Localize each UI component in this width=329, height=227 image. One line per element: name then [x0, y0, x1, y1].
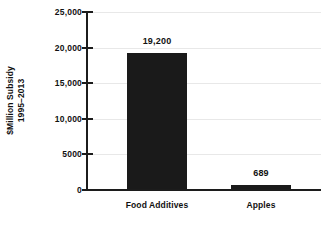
y-axis-tick-mark [82, 189, 93, 191]
bar-value-label: 689 [206, 168, 316, 178]
y-axis-line [86, 12, 88, 191]
y-tick-label: 0 [22, 185, 82, 195]
y-tick-label: 15,000 [22, 78, 82, 88]
y-axis-tick-mark [82, 47, 93, 49]
y-tick-label: 5000 [22, 149, 82, 159]
bar-value-label: 19,200 [102, 36, 212, 46]
gridline [88, 12, 321, 13]
x-axis-category-label: Apples [196, 200, 326, 210]
y-axis-tick-mark [82, 11, 93, 13]
bar [127, 53, 187, 190]
x-axis-line [86, 189, 321, 191]
gridline [88, 48, 321, 49]
y-tick-label: 20,000 [22, 43, 82, 53]
y-tick-label: 25,000 [22, 7, 82, 17]
gridline [88, 119, 321, 120]
y-axis-tick-mark [82, 118, 93, 120]
y-axis-title-line-1: $Million Subsidy [5, 66, 16, 135]
y-axis-tick-mark [82, 153, 93, 155]
y-axis-tick-mark [82, 82, 93, 84]
gridline [88, 83, 321, 84]
y-axis-tick-labels: 25,000 20,000 15,000 10,000 5000 0 [22, 0, 82, 227]
bar-chart: $Million Subsidy 1995–2013 25,000 20,000… [0, 0, 329, 227]
gridline [88, 154, 321, 155]
y-tick-label: 10,000 [22, 114, 82, 124]
